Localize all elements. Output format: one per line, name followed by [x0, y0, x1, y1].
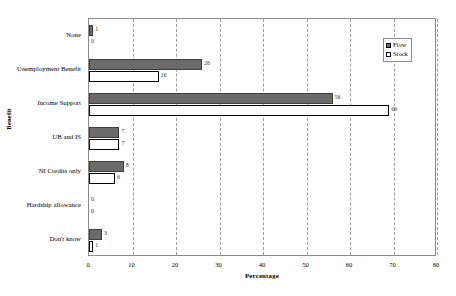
- category-label: NI Credits only: [0, 167, 84, 174]
- x-tick-label: 30: [207, 261, 231, 268]
- bar-value-label: 16: [161, 72, 167, 78]
- gridline-30: [220, 19, 221, 255]
- bar-stock: [89, 71, 159, 82]
- bar-chart: Benefit 102616566977860031 NoneUnemploym…: [0, 0, 456, 296]
- bar-stock: [89, 241, 93, 252]
- bar-value-label: 69: [391, 106, 397, 112]
- legend-item-flow[interactable]: Flow: [386, 41, 408, 50]
- x-tick-label: 70: [381, 261, 405, 268]
- bar-flow: [89, 25, 93, 36]
- bar-value-label: 3: [104, 230, 107, 236]
- category-label: Don't know: [0, 235, 84, 242]
- legend-swatch-stock-icon: [386, 52, 391, 57]
- gridline-80: [437, 19, 438, 255]
- clipped-caption: [10, 0, 310, 8]
- gridline-60: [350, 19, 351, 255]
- bar-value-label: 0: [91, 196, 94, 202]
- bar-value-label: 1: [95, 242, 98, 248]
- x-axis-title: Percentage: [88, 272, 436, 279]
- y-axis-title: Benefit: [5, 108, 12, 129]
- bar-flow: [89, 127, 119, 138]
- bar-value-label: 7: [121, 128, 124, 134]
- bar-stock: [89, 139, 119, 150]
- x-tick-label: 60: [337, 261, 361, 268]
- gridline-50: [307, 19, 308, 255]
- category-label: None: [0, 31, 84, 38]
- legend-item-stock[interactable]: Stock: [386, 50, 408, 59]
- bar-value-label: 1: [95, 26, 98, 32]
- bar-stock: [89, 105, 389, 116]
- category-label: Hardship allowance: [0, 201, 84, 208]
- category-label: Income Support: [0, 99, 84, 106]
- bar-value-label: 56: [335, 94, 341, 100]
- legend-label-stock: Stock: [393, 50, 408, 59]
- x-tick-label: 0: [76, 261, 100, 268]
- bar-flow: [89, 59, 202, 70]
- bar-flow: [89, 229, 102, 240]
- category-label: UB and IS: [0, 133, 84, 140]
- legend-swatch-flow-icon: [386, 43, 391, 48]
- category-label: Unemployment Benefit: [0, 65, 84, 72]
- gridline-20: [176, 19, 177, 255]
- bar-stock: [89, 173, 115, 184]
- x-tick-label: 40: [250, 261, 274, 268]
- x-tick-label: 50: [294, 261, 318, 268]
- bar-value-label: 0: [91, 208, 94, 214]
- bar-flow: [89, 161, 124, 172]
- gridline-10: [133, 19, 134, 255]
- legend: Flow Stock: [383, 38, 412, 62]
- bar-flow: [89, 93, 333, 104]
- legend-label-flow: Flow: [393, 41, 406, 50]
- bar-value-label: 8: [126, 162, 129, 168]
- bar-value-label: 0: [91, 38, 94, 44]
- bar-value-label: 26: [204, 60, 210, 66]
- bar-value-label: 7: [121, 140, 124, 146]
- x-tick-label: 20: [163, 261, 187, 268]
- gridline-40: [263, 19, 264, 255]
- x-tick-label: 10: [120, 261, 144, 268]
- bar-value-label: 6: [117, 174, 120, 180]
- x-tick-label: 80: [424, 261, 448, 268]
